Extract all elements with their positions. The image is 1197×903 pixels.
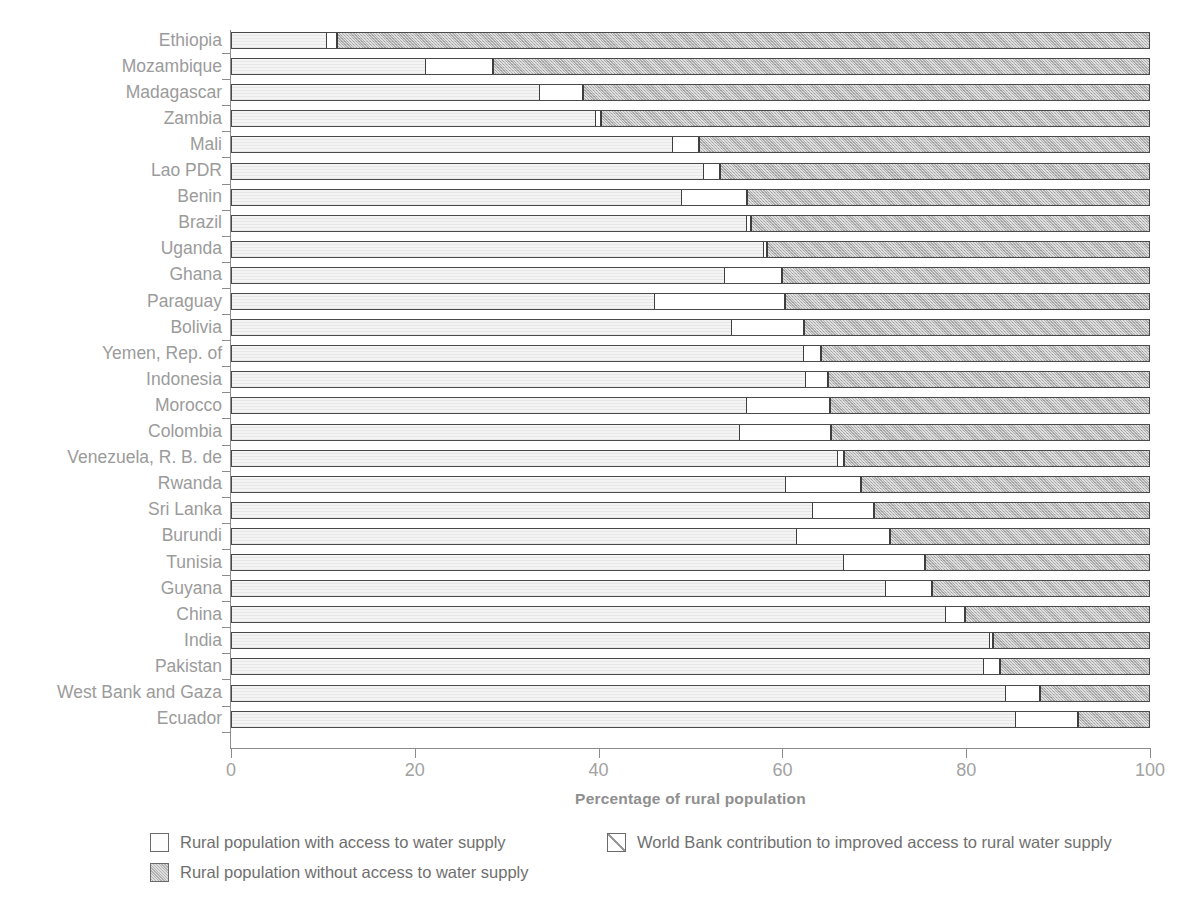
bar-segment-no-access [932,581,1149,596]
bar-segment-access [232,216,746,231]
y-axis-label-14: Indonesia [0,369,222,390]
bar-segment-world-bank [539,85,583,100]
bar-row [231,293,1150,310]
bar-segment-world-bank [703,164,720,179]
legend-item-world-bank[interactable]: World Bank contribution to improved acce… [607,833,1112,852]
y-axis-label-16: Colombia [0,421,222,442]
bar-segment-world-bank [805,372,828,387]
y-axis-tick [222,392,230,393]
x-axis-tick [782,748,783,758]
bar-segment-world-bank [945,607,964,622]
bar-segment-no-access [1078,712,1149,727]
bar-segment-access [232,503,812,518]
bar-row [231,502,1150,519]
legend-label-world-bank: World Bank contribution to improved acce… [637,833,1112,852]
bar-row [231,32,1150,49]
y-axis-tick [222,445,230,446]
bar-segment-access [232,581,885,596]
bar-row [231,658,1150,675]
bar-segment-access [232,477,785,492]
y-axis-tick [222,653,230,654]
bar-segment-access [232,164,703,179]
bar-segment-no-access [1000,659,1149,674]
y-axis-label-3: Madagascar [0,82,222,103]
y-axis-label-17: Venezuela, R. B. de [0,447,222,468]
bar-segment-access [232,555,843,570]
chart-legend: Rural population with access to water su… [150,833,1180,893]
bar-segment-access [232,607,945,622]
x-axis-tick [966,748,967,758]
y-axis-label-2: Mozambique [0,56,222,77]
y-axis-tick [222,418,230,419]
bar-row [231,189,1150,206]
y-axis-tick [222,706,230,707]
bar-segment-world-bank [731,320,804,335]
bar-segment-world-bank [724,268,783,283]
y-axis-tick [222,236,230,237]
y-axis-tick [222,575,230,576]
y-axis-label-15: Morocco [0,395,222,416]
y-axis-tick [222,105,230,106]
bar-segment-world-bank [1015,712,1078,727]
y-axis-tick [222,79,230,80]
y-axis-label-24: India [0,630,222,651]
legend-item-access[interactable]: Rural population with access to water su… [150,833,607,852]
bar-segment-access [232,268,724,283]
bar-segment-no-access [831,425,1149,440]
bar-segment-access [232,398,746,413]
legend-label-no-access: Rural population without access to water… [180,863,529,882]
bar-row [231,136,1150,153]
bar-row [231,424,1150,441]
bar-row [231,528,1150,545]
x-axis-tick [415,748,416,758]
bar-segment-no-access [1040,686,1149,701]
bar-row [231,580,1150,597]
bar-segment-access [232,451,837,466]
y-axis-label-7: Benin [0,186,222,207]
bar-segment-no-access [874,503,1149,518]
y-axis-label-8: Brazil [0,212,222,233]
bar-segment-no-access [493,59,1149,74]
bar-segment-access [232,242,763,257]
y-axis-label-26: West Bank and Gaza [0,682,222,703]
y-axis-label-23: China [0,604,222,625]
bar-segment-access [232,137,672,152]
bar-segment-no-access [785,294,1149,309]
x-axis-title: Percentage of rural population [231,790,1150,808]
bar-row [231,711,1150,728]
y-axis-tick [222,523,230,524]
bar-segment-world-bank [1005,686,1040,701]
access-swatch-icon [150,833,169,852]
bar-segment-access [232,425,739,440]
bar-row [231,241,1150,258]
bar-row [231,58,1150,75]
bar-segment-world-bank [803,346,820,361]
y-axis-tick [222,157,230,158]
y-axis-tick [222,340,230,341]
y-axis-label-19: Sri Lanka [0,499,222,520]
y-axis-tick [222,497,230,498]
y-axis-label-18: Rwanda [0,473,222,494]
bar-segment-access [232,659,983,674]
x-axis-tick [599,748,600,758]
bar-segment-no-access [747,190,1149,205]
x-axis-tick-label: 0 [201,760,261,781]
y-axis-tick [222,471,230,472]
bar-segment-world-bank [746,398,830,413]
bar-segment-no-access [925,555,1149,570]
bar-segment-no-access [890,529,1149,544]
bar-segment-access [232,85,539,100]
bar-row [231,632,1150,649]
bar-segment-no-access [830,398,1149,413]
bar-segment-no-access [751,216,1149,231]
y-axis-tick [222,679,230,680]
y-axis-label-13: Yemen, Rep. of [0,343,222,364]
legend-item-no-access[interactable]: Rural population without access to water… [150,863,607,882]
bar-row [231,371,1150,388]
y-axis-tick [222,53,230,54]
bar-segment-world-bank [843,555,926,570]
bar-segment-no-access [965,607,1149,622]
bar-segment-no-access [804,320,1149,335]
bar-segment-no-access [767,242,1149,257]
y-axis-label-22: Guyana [0,578,222,599]
